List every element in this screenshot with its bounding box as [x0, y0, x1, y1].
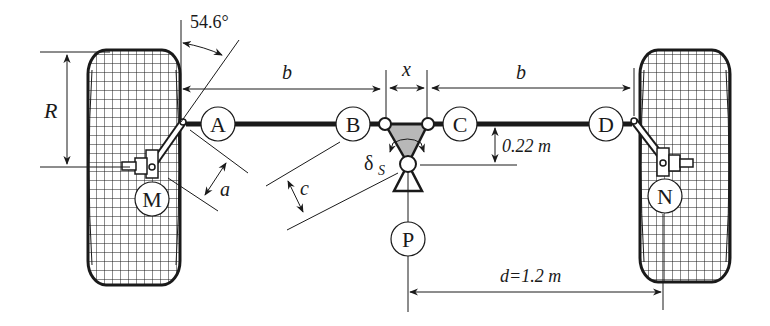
a-label: a [220, 178, 230, 200]
svg-text:M: M [142, 187, 162, 212]
angle-label: 54.6° [190, 12, 229, 32]
c-label: c [300, 177, 309, 199]
svg-text:N: N [657, 184, 673, 209]
node-D: D [589, 107, 623, 141]
node-N: N [648, 179, 682, 213]
svg-text:D: D [598, 112, 614, 137]
pivot-joint [400, 156, 416, 172]
svg-text:B: B [346, 112, 361, 137]
delta-label: δ [364, 152, 373, 174]
center-link [379, 118, 434, 222]
joint-right [422, 118, 434, 130]
b-left-label: b [282, 61, 292, 83]
node-A: A [201, 107, 235, 141]
node-P: P [391, 222, 425, 256]
svg-text:P: P [402, 227, 414, 252]
d-label: d=1.2 m [500, 266, 561, 286]
R-label: R [43, 98, 58, 123]
b-right-label: b [516, 61, 526, 83]
node-M: M [135, 182, 169, 216]
svg-text:A: A [210, 112, 226, 137]
node-B: B [336, 107, 370, 141]
x-label: x [401, 58, 411, 80]
node-C: C [443, 107, 477, 141]
svg-text:C: C [453, 112, 468, 137]
height-label: 0.22 m [502, 136, 551, 156]
delta-subscript: S [378, 163, 385, 178]
joint-left [379, 118, 391, 130]
steering-linkage-diagram: A B C D M N P 54.6° b x b R a c δ S 0.22… [0, 0, 770, 326]
